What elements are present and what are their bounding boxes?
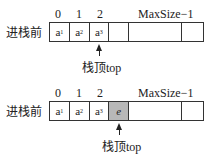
stack-array: a1 a2 a3 e [49, 101, 204, 121]
index-0: 0 [55, 86, 61, 100]
stack-cell [182, 23, 203, 41]
top-pointer-label: 栈顶top [102, 140, 141, 154]
index-1: 1 [76, 7, 82, 21]
index-1: 1 [76, 86, 82, 100]
stack-cell: a3 [90, 102, 110, 120]
stack-cell: a2 [70, 102, 90, 120]
row-label: 进栈前 [6, 26, 42, 40]
index-0: 0 [55, 7, 61, 21]
stack-before-push: 0 1 2 MaxSize−1 进栈前 a1 a2 a3 栈顶top [0, 7, 218, 77]
stack-cell [109, 23, 129, 41]
index-2: 2 [97, 86, 103, 100]
row-label: 进栈前 [6, 105, 42, 119]
stack-array: a1 a2 a3 [49, 22, 204, 42]
stack-cell [129, 23, 182, 41]
max-index-label: MaxSize−1 [138, 86, 193, 100]
stack-cell: a2 [70, 23, 90, 41]
index-2: 2 [97, 7, 103, 21]
top-pointer-line [99, 50, 100, 56]
stack-cell: a3 [90, 23, 110, 41]
max-index-label: MaxSize−1 [138, 7, 193, 21]
stack-cell [129, 102, 182, 120]
stack-cell [182, 102, 203, 120]
pushed-cell: e [109, 102, 129, 120]
stack-cell: a1 [50, 23, 70, 41]
stack-after-push: 0 1 2 MaxSize−1 进栈前 a1 a2 a3 e 栈顶top [0, 86, 218, 156]
stack-cell: a1 [50, 102, 70, 120]
top-pointer-label: 栈顶top [82, 61, 121, 75]
top-pointer-line [119, 129, 120, 135]
